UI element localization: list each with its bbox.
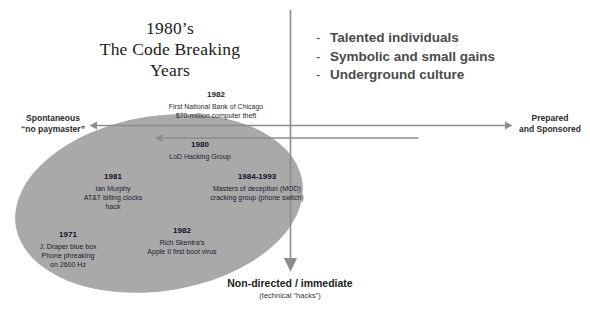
event-annotation-chicago: 1982 First National Bank of Chicago $70-… xyxy=(150,90,282,120)
event-desc-line-1: Ian Murphy xyxy=(58,184,168,193)
bullet-list: - Talented individuals - Symbolic and sm… xyxy=(316,29,531,85)
axis-label-bottom: Non-directed / immediate (technical “hac… xyxy=(195,277,385,301)
slide-canvas: 1980’s The Code Breaking Years - Talente… xyxy=(0,0,590,313)
bullet-dash-icon: - xyxy=(316,66,330,85)
axis-label-right-line-1: Prepared xyxy=(532,113,569,123)
axis-label-right: Prepared and Sponsored xyxy=(512,113,588,135)
title-line-3: Years xyxy=(50,60,290,81)
event-desc-line-2: AT&T billing clocks xyxy=(58,193,168,202)
bullet-label-2: Underground culture xyxy=(330,66,531,85)
event-year: 1982 xyxy=(120,226,244,236)
bullet-label-1: Symbolic and small gains xyxy=(330,48,531,67)
event-year: 1981 xyxy=(58,172,168,182)
event-annotation-draper: 1971 J. Draper blue box Phone phreaking … xyxy=(12,230,124,269)
axis-label-left-line-2: “no paymaster” xyxy=(21,124,85,134)
bullet-label-0: Talented individuals xyxy=(330,29,531,48)
title-line-2: The Code Breaking xyxy=(50,39,290,60)
event-desc-line-2: cracking group (phone switch) xyxy=(186,193,328,202)
axis-label-left-line-1: Spontaneous xyxy=(26,113,80,123)
bullet-dash-icon: - xyxy=(316,48,330,67)
event-annotation-skentra: 1982 Rich Skentra’s Apple II first boot … xyxy=(120,226,244,256)
event-desc-line-1: J. Draper blue box xyxy=(12,242,124,251)
event-year: 1984-1993 xyxy=(186,172,328,182)
event-year: 1971 xyxy=(12,230,124,240)
bullet-item-2: - Underground culture xyxy=(316,66,531,85)
event-desc-line-2: Apple II first boot virus xyxy=(120,247,244,256)
event-desc-line-1: First National Bank of Chicago xyxy=(150,102,282,111)
axis-label-bottom-main: Non-directed / immediate xyxy=(195,277,385,290)
event-annotation-mod: 1984-1993 Masters of deception (MOD) cra… xyxy=(186,172,328,202)
axis-label-left: Spontaneous “no paymaster” xyxy=(14,113,92,135)
event-desc-line-2: $70-million computer theft xyxy=(150,111,282,120)
bullet-item-0: - Talented individuals xyxy=(316,29,531,48)
event-annotation-lod: 1980 LoD Hacking Group xyxy=(135,140,265,161)
bullet-dash-icon: - xyxy=(316,29,330,48)
bullet-item-1: - Symbolic and small gains xyxy=(316,48,531,67)
event-desc-line-1: Rich Skentra’s xyxy=(120,238,244,247)
title-line-1: 1980’s xyxy=(50,18,290,39)
event-desc-line-1: Masters of deception (MOD) xyxy=(186,184,328,193)
event-desc-line-1: LoD Hacking Group xyxy=(135,152,265,161)
axis-label-bottom-sub: (technical “hacks”) xyxy=(195,290,385,301)
event-desc-line-2: Phone phreaking xyxy=(12,251,124,260)
event-year: 1982 xyxy=(150,90,282,100)
slide-title: 1980’s The Code Breaking Years xyxy=(50,18,290,81)
event-desc-line-3: hack xyxy=(58,202,168,211)
event-year: 1980 xyxy=(135,140,265,150)
event-annotation-murphy: 1981 Ian Murphy AT&T billing clocks hack xyxy=(58,172,168,211)
event-desc-line-3: on 2600 Hz xyxy=(12,260,124,269)
axis-label-right-line-2: and Sponsored xyxy=(519,124,581,134)
